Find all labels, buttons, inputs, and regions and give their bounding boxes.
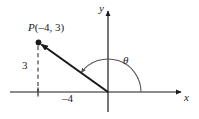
point-p-name: P <box>28 21 35 33</box>
coordinate-plane-figure: P(–4, 3) 3 –4 θ y x <box>0 0 199 119</box>
figure-canvas <box>0 0 199 119</box>
angle-arc <box>81 59 141 92</box>
horizontal-leg-label: –4 <box>62 93 73 104</box>
vertical-leg-label: 3 <box>22 60 28 71</box>
terminal-ray <box>42 45 109 93</box>
point-p-label: P(–4, 3) <box>28 22 64 33</box>
theta-angle-label: θ <box>123 55 128 66</box>
x-axis-label: x <box>184 92 189 103</box>
y-axis-label: y <box>99 3 104 14</box>
point-p-dot <box>36 40 42 46</box>
point-p-coords: (–4, 3) <box>35 21 64 33</box>
